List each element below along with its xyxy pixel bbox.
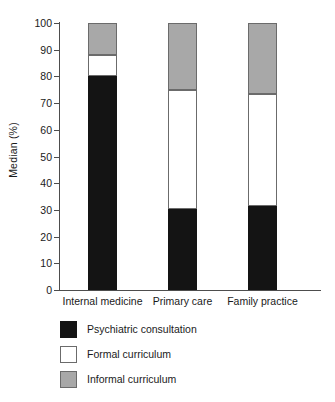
- y-axis-tick-label: 40: [12, 178, 52, 189]
- legend-color-swatch: [60, 321, 77, 338]
- bar-segment[interactable]: [168, 209, 197, 290]
- bar-segment[interactable]: [88, 76, 117, 290]
- y-axis-tick: [54, 76, 60, 77]
- bar-segment[interactable]: [248, 94, 277, 206]
- legend-color-swatch: [60, 346, 77, 363]
- y-axis-tick: [54, 50, 60, 51]
- y-axis-tick-label-text: 100: [16, 18, 52, 29]
- y-axis-tick-label: 10: [12, 258, 52, 269]
- stacked-bar-chart-figure: Median (%) 0102030405060708090100 Intern…: [0, 0, 335, 402]
- y-axis-tick-label: 70: [12, 98, 52, 109]
- y-axis-tick-label-text: 90: [16, 45, 52, 56]
- bar-segment[interactable]: [168, 90, 197, 209]
- y-axis-tick-label-text: 0: [16, 285, 52, 296]
- x-axis-category-label: Family practice: [203, 296, 323, 308]
- stacked-bar[interactable]: [168, 23, 197, 290]
- legend-item[interactable]: Psychiatric consultation: [60, 318, 197, 340]
- y-axis-tick-label: 90: [12, 45, 52, 56]
- y-axis-tick: [54, 290, 60, 291]
- y-axis-tick-label-text: 20: [16, 232, 52, 243]
- legend-item[interactable]: Informal curriculum: [60, 368, 176, 390]
- y-axis-tick-label: 50: [12, 152, 52, 163]
- stacked-bar[interactable]: [248, 23, 277, 290]
- y-axis-tick-label: 60: [12, 125, 52, 136]
- bar-segment[interactable]: [88, 55, 117, 76]
- y-axis-tick-label-text: 80: [16, 71, 52, 82]
- y-axis-tick: [54, 237, 60, 238]
- bar-segment[interactable]: [248, 23, 277, 94]
- y-axis-tick-label-text: 70: [16, 98, 52, 109]
- y-axis-tick-label: 100: [12, 18, 52, 29]
- stacked-bar[interactable]: [88, 23, 117, 290]
- y-axis-tick-label-text: 40: [16, 178, 52, 189]
- legend-item-label: Formal curriculum: [87, 348, 171, 360]
- y-axis-tick: [54, 130, 60, 131]
- y-axis-tick: [54, 183, 60, 184]
- y-axis-tick-label-text: 10: [16, 258, 52, 269]
- y-axis-tick-label-text: 60: [16, 125, 52, 136]
- legend-item-label: Psychiatric consultation: [87, 323, 197, 335]
- y-axis-tick: [54, 263, 60, 264]
- y-axis-tick-label: 0: [12, 285, 52, 296]
- legend-item-label: Informal curriculum: [87, 373, 176, 385]
- bar-segment[interactable]: [248, 206, 277, 290]
- y-axis-tick-label: 30: [12, 205, 52, 216]
- y-axis-tick: [54, 157, 60, 158]
- legend-color-swatch: [60, 371, 77, 388]
- y-axis-tick-label: 80: [12, 71, 52, 82]
- y-axis-tick: [54, 210, 60, 211]
- y-axis-tick: [54, 103, 60, 104]
- y-axis-tick-label: 20: [12, 232, 52, 243]
- legend-item[interactable]: Formal curriculum: [60, 343, 171, 365]
- bar-segment[interactable]: [88, 23, 117, 55]
- bar-segment[interactable]: [168, 23, 197, 90]
- x-axis-spine: [59, 290, 321, 291]
- y-axis-tick-label-text: 30: [16, 205, 52, 216]
- y-axis-tick: [54, 23, 60, 24]
- y-axis-tick-label-text: 50: [16, 152, 52, 163]
